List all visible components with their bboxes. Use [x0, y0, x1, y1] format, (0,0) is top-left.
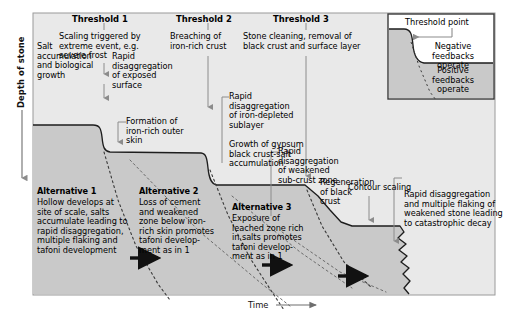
alternative-1-title: Alternative 1	[37, 187, 97, 197]
label-salt-accumulation: Salt accumulation and biological growth	[37, 42, 107, 80]
alternative-2-title: Alternative 2	[139, 187, 199, 197]
threshold-3-title: Threshold 3	[273, 14, 329, 24]
alternative-1-text: Hollow develops at site of scale, salts …	[37, 198, 141, 256]
alternative-3-title: Alternative 3	[232, 203, 292, 213]
y-axis-label: Depth of stone	[16, 36, 26, 108]
label-catastrophic-decay: Rapid disaggregation and multiple flakin…	[404, 190, 516, 228]
figure-root: Depth of stone Time Threshold 1 Scaling …	[0, 0, 529, 320]
x-axis-label: Time	[248, 300, 269, 310]
alternative-3-text: Exposure of leached zone rich in salts p…	[232, 214, 324, 262]
inset-positive-feedbacks-label: Positive feedbacks operate	[414, 66, 492, 95]
threshold-2-title: Threshold 2	[176, 14, 232, 24]
inset-threshold-point-label: Threshold point	[405, 18, 489, 28]
threshold-2-description: Breaching of iron-rich crust	[170, 32, 248, 51]
label-rapid-disaggregation-exposed: Rapid disaggregation of exposed surface	[112, 52, 178, 90]
threshold-1-title: Threshold 1	[72, 14, 128, 24]
label-formation-iron-skin: Formation of iron-rich outer skin	[126, 117, 194, 146]
label-rapid-disaggregation-sublayer: Rapid disaggregation of iron-depleted su…	[229, 92, 303, 130]
threshold-3-description: Stone cleaning, removal of black crust a…	[243, 32, 379, 51]
alternative-2-text: Loss of cement and weakened zone below i…	[139, 198, 231, 256]
